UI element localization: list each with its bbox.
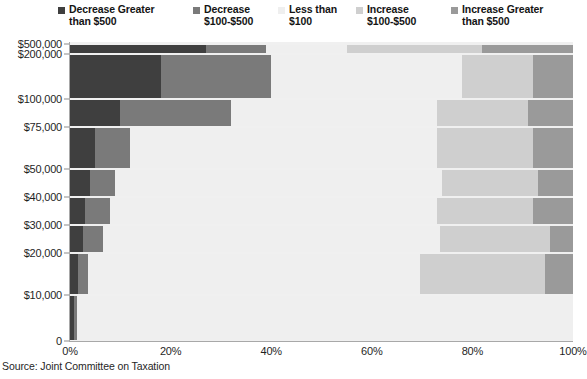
bar-segment[interactable]: [95, 128, 130, 168]
legend-label: Less than $100: [289, 4, 337, 27]
bar-segment[interactable]: [440, 226, 551, 252]
bar-segment[interactable]: [420, 254, 546, 294]
bar-segment[interactable]: [83, 226, 103, 252]
bar-row[interactable]: [70, 170, 573, 196]
bar-segment[interactable]: [538, 170, 573, 196]
legend-label: Decrease Greater than $500: [69, 4, 154, 27]
bar-segment[interactable]: [115, 170, 442, 196]
bar-segment[interactable]: [77, 296, 573, 340]
bar-row[interactable]: [70, 226, 573, 252]
bar-segment[interactable]: [85, 198, 110, 224]
bar-row[interactable]: [70, 45, 573, 53]
bar-segment[interactable]: [70, 198, 85, 224]
legend-item-less-than-100[interactable]: Less than $100: [278, 4, 356, 27]
bar-segment[interactable]: [70, 55, 161, 98]
x-axis-tick-label: 100%: [559, 345, 586, 357]
y-axis-tick-label: $30,000: [24, 219, 62, 231]
chart-legend: Decrease Greater than $500 Decrease $100…: [58, 4, 570, 40]
legend-item-increase-100-500[interactable]: Increase $100-$500: [356, 4, 451, 27]
bar-segment[interactable]: [70, 170, 90, 196]
y-axis-tick-label: $20,000: [24, 247, 62, 259]
bar-segment[interactable]: [528, 100, 573, 126]
source-note: Source: Joint Committee on Taxation: [2, 360, 170, 372]
bar-rows: [70, 42, 573, 341]
legend-label: Decrease $100-$500: [204, 4, 253, 27]
x-axis-line: [69, 341, 573, 342]
legend-swatch-icon: [278, 7, 285, 14]
x-axis-tick-label: 0%: [62, 345, 78, 357]
legend-swatch-icon: [58, 7, 65, 14]
bar-segment[interactable]: [70, 226, 83, 252]
bar-segment[interactable]: [442, 170, 538, 196]
bar-row[interactable]: [70, 100, 573, 126]
y-axis-tick-label: 0: [56, 335, 62, 347]
bar-segment[interactable]: [161, 55, 272, 98]
x-axis: 0%20%40%60%80%100%: [70, 343, 573, 361]
y-axis-tick-label: $100,000: [18, 93, 62, 105]
bar-segment[interactable]: [88, 254, 420, 294]
bar-segment[interactable]: [110, 198, 437, 224]
y-axis-tick-label: $75,000: [24, 121, 62, 133]
y-axis-tick-label: $40,000: [24, 191, 62, 203]
bar-row[interactable]: [70, 198, 573, 224]
bar-row[interactable]: [70, 254, 573, 294]
x-axis-tick-label: 40%: [260, 345, 281, 357]
y-axis-tick-label: $50,000: [24, 163, 62, 175]
plot-area: [70, 42, 573, 341]
bar-segment[interactable]: [103, 226, 440, 252]
bar-segment[interactable]: [120, 100, 231, 126]
legend-swatch-icon: [451, 7, 458, 14]
legend-item-increase-greater-than-500[interactable]: Increase Greater than $500: [451, 4, 566, 27]
bar-segment[interactable]: [347, 45, 483, 53]
legend-item-decrease-greater-than-500[interactable]: Decrease Greater than $500: [58, 4, 193, 27]
bar-segment[interactable]: [231, 100, 437, 126]
bar-segment[interactable]: [70, 254, 78, 294]
bar-segment[interactable]: [271, 55, 462, 98]
bar-row[interactable]: [70, 128, 573, 168]
bar-segment[interactable]: [70, 100, 120, 126]
bar-row[interactable]: [70, 296, 573, 340]
x-axis-tick-label: 80%: [462, 345, 483, 357]
y-axis: $500,000$200,000$100,000$75,000$50,000$4…: [0, 42, 70, 341]
bar-segment[interactable]: [437, 198, 533, 224]
bar-segment[interactable]: [533, 55, 573, 98]
legend-swatch-icon: [193, 7, 200, 14]
legend-label: Increase $100-$500: [367, 4, 416, 27]
x-axis-tick-label: 20%: [160, 345, 181, 357]
bar-segment[interactable]: [437, 100, 528, 126]
x-axis-tick-label: 60%: [361, 345, 382, 357]
legend-item-decrease-100-500[interactable]: Decrease $100-$500: [193, 4, 278, 27]
y-axis-tick-label: $200,000: [18, 48, 62, 60]
bar-segment[interactable]: [437, 128, 533, 168]
bar-segment[interactable]: [550, 226, 573, 252]
bar-segment[interactable]: [533, 128, 573, 168]
bar-segment[interactable]: [482, 45, 573, 53]
bar-segment[interactable]: [130, 128, 437, 168]
bar-segment[interactable]: [266, 45, 346, 53]
bar-segment[interactable]: [90, 170, 115, 196]
bar-segment[interactable]: [70, 45, 206, 53]
bar-segment[interactable]: [462, 55, 532, 98]
y-axis-tick-label: $10,000: [24, 289, 62, 301]
bar-row[interactable]: [70, 55, 573, 98]
legend-swatch-icon: [356, 7, 363, 14]
bar-segment[interactable]: [545, 254, 573, 294]
legend-label: Increase Greater than $500: [462, 4, 543, 27]
bar-segment[interactable]: [206, 45, 266, 53]
bar-segment[interactable]: [70, 128, 95, 168]
bar-segment[interactable]: [78, 254, 88, 294]
bar-segment[interactable]: [533, 198, 573, 224]
